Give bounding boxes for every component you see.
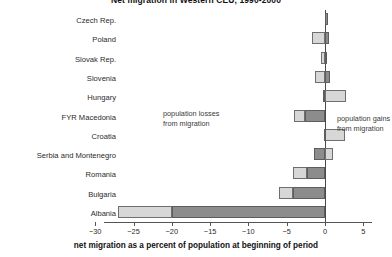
x-axis-tick	[248, 222, 249, 226]
bar-row	[0, 187, 392, 199]
bar-segment-dark	[325, 32, 329, 44]
bar-segment-light	[325, 148, 333, 160]
x-axis-line	[104, 222, 372, 223]
annotation-population-gains: population gains from migration	[337, 114, 390, 133]
bar-segment-dark	[325, 71, 330, 83]
bar-segment-light	[279, 187, 293, 199]
chart-title: Net migration in Western CEU, 1990-2000	[0, 0, 392, 5]
annotation-losses-line2: from migration	[163, 119, 219, 129]
x-axis-tick	[95, 222, 96, 226]
net-migration-bar-chart: Net migration in Western CEU, 1990-2000 …	[0, 0, 392, 257]
x-axis-tick-label: 5	[348, 227, 378, 236]
bar-row	[0, 129, 392, 141]
bar-segment-light	[293, 167, 307, 179]
x-axis-tick-label: −10	[233, 227, 263, 236]
annotation-population-losses: population losses from migration	[163, 109, 219, 128]
bar-segment-dark	[305, 110, 325, 122]
annotation-gains-line1: population gains	[337, 114, 390, 124]
bar-segment-light	[325, 90, 346, 102]
x-axis-tick	[172, 222, 173, 226]
bar-segment-light	[294, 110, 305, 122]
x-axis-tick-label: −30	[80, 227, 110, 236]
bar-segment-dark	[325, 52, 327, 64]
x-axis-tick-label: −5	[272, 227, 302, 236]
x-axis-tick	[325, 222, 326, 226]
annotation-gains-line2: from migration	[337, 124, 390, 134]
x-axis-tick	[287, 222, 288, 226]
bar-segment-light	[312, 32, 325, 44]
bar-row	[0, 206, 392, 218]
x-axis-title: net migration as a percent of population…	[0, 241, 392, 250]
bar-segment-dark	[293, 187, 325, 199]
bar-row	[0, 167, 392, 179]
bar-row	[0, 13, 392, 25]
bar-row	[0, 90, 392, 102]
bar-segment-dark	[325, 13, 328, 25]
bar-segment-light	[118, 206, 172, 218]
x-axis-tick-label: 0	[310, 227, 340, 236]
x-axis-tick-label: −15	[195, 227, 225, 236]
bar-segment-dark	[172, 206, 325, 218]
x-axis-tick	[134, 222, 135, 226]
bar-segment-dark	[324, 129, 326, 141]
bar-segment-dark	[307, 167, 325, 179]
bar-segment-dark	[323, 90, 325, 102]
x-axis-tick-label: −20	[157, 227, 187, 236]
bar-row	[0, 32, 392, 44]
bar-segment-light	[315, 71, 325, 83]
x-axis-tick	[363, 222, 364, 226]
x-axis-tick-label: −25	[119, 227, 149, 236]
annotation-losses-line1: population losses	[163, 109, 219, 119]
plot-area: Czech Rep.PolandSlovak Rep.SloveniaHunga…	[0, 10, 392, 222]
bar-row	[0, 148, 392, 160]
bar-row	[0, 71, 392, 83]
x-axis-tick	[210, 222, 211, 226]
bar-row	[0, 52, 392, 64]
bar-segment-dark	[314, 148, 325, 160]
